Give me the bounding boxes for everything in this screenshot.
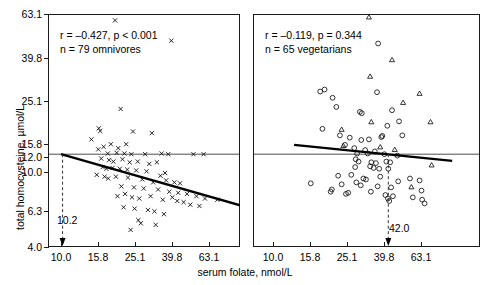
data-point-cross	[132, 185, 136, 189]
data-point-circle	[318, 89, 323, 94]
data-point-circle	[308, 181, 313, 186]
data-point-circle	[338, 133, 343, 138]
x-tick-mark	[384, 242, 385, 247]
data-point-triangle	[428, 119, 433, 123]
x-tick-mark	[421, 242, 422, 247]
cutoff-arrow-icon	[385, 238, 391, 246]
x-tick-mark	[310, 242, 311, 247]
data-point-cross	[122, 205, 126, 209]
data-point-circle	[358, 183, 363, 188]
data-point-circle	[353, 165, 358, 170]
data-point-circle	[378, 174, 383, 179]
data-point-cross	[176, 191, 180, 195]
data-point-cross	[136, 159, 140, 163]
data-point-cross	[115, 194, 119, 198]
data-point-cross	[109, 142, 113, 146]
data-point-cross	[128, 160, 132, 164]
data-point-cross	[102, 145, 106, 149]
data-point-cross	[123, 192, 127, 196]
data-point-circle	[349, 172, 354, 177]
x-tick-label: 39.8	[364, 252, 404, 263]
data-point-cross	[164, 178, 168, 182]
x-tick-label: 15.8	[78, 252, 118, 263]
x-tick-mark	[98, 242, 99, 247]
data-point-cross	[124, 142, 128, 146]
data-point-cross	[120, 157, 124, 161]
data-point-cross	[160, 151, 164, 155]
cutoff-label-omnivores: 10.2	[57, 214, 77, 226]
cutoff-label-vegetarians: 42.0	[389, 222, 409, 234]
data-point-cross	[144, 169, 148, 173]
data-point-circle	[385, 123, 390, 128]
data-point-circle	[422, 201, 427, 206]
data-point-cross	[131, 129, 135, 133]
data-point-cross	[156, 187, 160, 191]
data-point-circle	[354, 180, 359, 185]
data-point-circle	[336, 173, 341, 178]
data-point-cross	[133, 207, 137, 211]
data-point-circle	[417, 178, 422, 183]
data-point-circle	[368, 189, 373, 194]
data-point-circle	[400, 133, 405, 138]
x-tick-label: 25.1	[327, 252, 367, 263]
data-point-cross	[142, 186, 146, 190]
data-point-cross	[129, 228, 133, 232]
data-point-cross	[107, 158, 111, 162]
annotation-omnivores-stats: r = –0.427, p < 0.001	[60, 28, 158, 42]
data-point-cross	[95, 173, 99, 177]
data-point-circle	[330, 95, 335, 100]
data-point-cross	[203, 196, 207, 200]
data-point-circle	[374, 161, 379, 166]
data-point-circle	[390, 108, 395, 113]
x-tick-label: 39.8	[152, 252, 192, 263]
x-tick-label: 63.1	[189, 252, 229, 263]
data-point-circle	[376, 41, 381, 46]
data-point-triangle	[339, 127, 344, 131]
data-point-cross	[113, 18, 117, 22]
data-point-circle	[320, 126, 325, 131]
data-point-cross	[178, 181, 182, 185]
data-point-triangle	[390, 57, 395, 61]
data-point-cross	[185, 192, 189, 196]
data-point-circle	[359, 138, 364, 143]
data-point-triangle	[369, 119, 374, 123]
data-point-cross	[167, 190, 171, 194]
data-point-cross	[126, 175, 130, 179]
x-tick-mark	[172, 242, 173, 247]
annotation-vegetarians-n: n = 65 vegetarians	[265, 42, 362, 56]
data-point-cross	[89, 137, 93, 141]
data-point-circle	[334, 105, 339, 110]
x-tick-label: 10.0	[41, 252, 81, 263]
data-point-cross	[182, 200, 186, 204]
data-point-cross	[172, 180, 176, 184]
x-tick-mark	[209, 242, 210, 247]
data-point-cross	[122, 151, 126, 155]
data-point-triangle	[417, 91, 422, 95]
data-point-circle	[375, 184, 380, 189]
data-point-cross	[170, 195, 174, 199]
data-point-triangle	[429, 163, 434, 167]
x-tick-mark	[61, 242, 62, 247]
data-point-cross	[116, 146, 120, 150]
data-point-cross	[154, 223, 158, 227]
data-point-cross	[197, 204, 201, 208]
data-point-cross	[147, 162, 151, 166]
data-point-cross	[150, 131, 154, 135]
data-point-cross	[119, 184, 123, 188]
data-point-cross	[137, 196, 141, 200]
data-point-cross	[125, 168, 129, 172]
data-point-cross	[130, 195, 134, 199]
data-point-circle	[367, 137, 372, 142]
x-tick-label: 25.1	[115, 252, 155, 263]
data-point-circle	[410, 195, 415, 200]
data-point-circle	[347, 135, 352, 140]
data-point-cross	[175, 199, 179, 203]
data-point-circle	[380, 134, 385, 139]
data-point-circle	[391, 194, 396, 199]
data-point-cross	[99, 156, 103, 160]
data-point-cross	[106, 151, 110, 155]
x-tick-mark	[347, 242, 348, 247]
data-point-cross	[136, 218, 140, 222]
data-point-cross	[114, 175, 118, 179]
data-point-triangle	[401, 100, 406, 104]
